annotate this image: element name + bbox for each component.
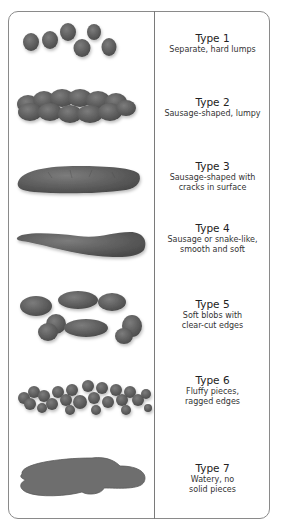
type-description: solid pieces [155, 485, 270, 495]
type-7-row: Type 7 Watery, no solid pieces [8, 444, 270, 510]
type-7-label: Type 7 Watery, no solid pieces [155, 462, 270, 495]
fluffy-pieces-icon [8, 364, 154, 430]
type-title: Type 6 [155, 374, 270, 387]
type-description: cracks in surface [155, 183, 270, 193]
type-2-row: Type 2 Sausage-shaped, lumpy [8, 78, 270, 138]
cracked-sausage-icon [8, 148, 154, 210]
type-3-row: Type 3 Sausage-shaped with cracks in sur… [8, 148, 270, 210]
type-title: Type 7 [155, 462, 270, 475]
type-description: Separate, hard lumps [155, 45, 270, 55]
lumpy-sausage-icon [8, 78, 154, 138]
type-description: Sausage-shaped with [155, 173, 270, 183]
type-4-label: Type 4 Sausage or snake-like, smooth and… [155, 222, 270, 255]
type-description: Sausage or snake-like, [155, 235, 270, 245]
type-description: clear-cut edges [155, 321, 270, 331]
smooth-snake-icon [8, 212, 154, 274]
type-description: Soft blobs with [155, 311, 270, 321]
type-title: Type 5 [155, 298, 270, 311]
type-5-label: Type 5 Soft blobs with clear-cut edges [155, 298, 270, 331]
type-title: Type 1 [155, 32, 270, 45]
type-6-label: Type 6 Fluffy pieces, ragged edges [155, 374, 270, 407]
type-description: smooth and soft [155, 245, 270, 255]
type-description: Watery, no [155, 475, 270, 485]
type-1-label: Type 1 Separate, hard lumps [155, 32, 270, 55]
type-description: Fluffy pieces, [155, 387, 270, 397]
type-1-row: Type 1 Separate, hard lumps [8, 12, 270, 74]
type-2-label: Type 2 Sausage-shaped, lumpy [155, 96, 270, 119]
type-3-label: Type 3 Sausage-shaped with cracks in sur… [155, 160, 270, 193]
type-5-row: Type 5 Soft blobs with clear-cut edges [8, 284, 270, 350]
separate-lumps-icon [8, 12, 154, 74]
type-title: Type 2 [155, 96, 270, 109]
type-description: Sausage-shaped, lumpy [155, 109, 270, 119]
watery-puddle-icon [8, 444, 154, 510]
type-description: ragged edges [155, 397, 270, 407]
type-title: Type 3 [155, 160, 270, 173]
type-title: Type 4 [155, 222, 270, 235]
type-6-row: Type 6 Fluffy pieces, ragged edges [8, 364, 270, 430]
soft-blobs-icon [8, 284, 154, 350]
type-4-row: Type 4 Sausage or snake-like, smooth and… [8, 212, 270, 274]
